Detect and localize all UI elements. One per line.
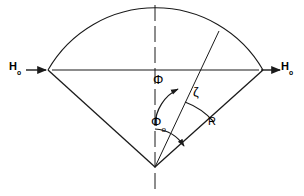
phi-label: Φ <box>153 73 163 86</box>
figure-container: Ho Ho Φ ζ Φo R <box>0 0 304 196</box>
phi-zero-label-subscript: o <box>161 125 165 134</box>
phi-zero-label-text: Φ <box>151 114 161 129</box>
h0-left-label-subscript: o <box>17 69 21 76</box>
h0-right-label-text: H <box>281 60 289 72</box>
left-radius-line <box>48 70 155 167</box>
h0-left-label-text: H <box>9 60 17 72</box>
h0-right-label: Ho <box>281 61 293 75</box>
phi-zero-label: Φo <box>151 115 166 132</box>
h0-left-label: Ho <box>9 61 21 75</box>
radius-label: R <box>208 116 216 127</box>
h0-right-label-subscript: o <box>289 69 293 76</box>
zeta-label: ζ <box>193 85 199 98</box>
sector-diagram-svg <box>0 0 304 196</box>
